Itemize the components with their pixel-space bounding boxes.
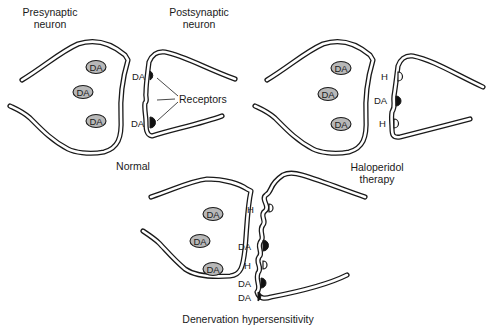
postsynaptic-membrane	[257, 173, 365, 298]
da-receptor-bound	[396, 96, 401, 106]
caption-denervation: Denervation hypersensitivity	[178, 313, 318, 325]
postsynaptic-membrane	[392, 56, 483, 137]
svg-text:DA: DA	[89, 62, 103, 73]
h-receptor-bound	[394, 119, 399, 128]
svg-text:DA: DA	[334, 63, 348, 74]
svg-text:DA: DA	[206, 264, 220, 275]
receptors-leader-lines	[157, 78, 178, 121]
panel-denervation: DA DA DA H DA H DA DA	[143, 173, 365, 303]
vesicle: DA	[190, 235, 210, 248]
vesicle: DA	[203, 208, 223, 221]
receptor-label: DA	[374, 95, 388, 106]
vesicle: DA	[331, 118, 351, 131]
caption-normal: Normal	[108, 160, 158, 172]
vesicle: DA	[318, 88, 338, 101]
svg-text:DA: DA	[76, 87, 90, 98]
da-receptor-bound	[263, 240, 269, 251]
receptor-label: H	[381, 71, 388, 82]
receptor-label: H	[379, 118, 386, 129]
vesicle: DA	[73, 86, 93, 99]
caption-haloperidol-line2: therapy	[345, 173, 409, 185]
svg-text:DA: DA	[89, 116, 103, 127]
h-receptor-bound	[263, 261, 267, 269]
presynaptic-membrane	[143, 179, 251, 276]
da-receptor-bound	[150, 71, 153, 80]
h-receptor-bound	[398, 72, 403, 81]
vesicle: DA	[203, 263, 223, 276]
svg-text:DA: DA	[193, 236, 207, 247]
receptor-label: DA	[238, 292, 252, 303]
synapse-diagram: DA DA DA DA DA Receptors	[0, 0, 490, 332]
da-receptor-bound	[261, 278, 266, 288]
panel-haloperidol: DA DA DA H DA H	[255, 42, 483, 154]
svg-text:DA: DA	[206, 209, 220, 220]
caption-haloperidol: Haloperidol therapy	[345, 161, 409, 185]
vesicle: DA	[331, 62, 351, 75]
presynaptic-membrane	[255, 42, 373, 154]
presynaptic-membrane	[10, 42, 128, 154]
caption-haloperidol-line1: Haloperidol	[345, 161, 409, 173]
receptor-label: DA	[238, 241, 252, 252]
receptors-callout: Receptors	[179, 93, 227, 105]
receptor-label: DA	[131, 118, 145, 129]
da-receptor-bound	[258, 292, 261, 301]
h-receptor-bound	[269, 204, 273, 212]
vesicle: DA	[86, 115, 106, 128]
vesicle: DA	[86, 61, 106, 74]
receptor-label: DA	[132, 71, 146, 82]
panel-normal: DA DA DA DA DA Receptors	[10, 42, 235, 154]
da-receptor-bound	[150, 117, 156, 128]
svg-text:DA: DA	[321, 89, 335, 100]
receptor-label: H	[244, 260, 251, 271]
receptor-label: H	[247, 204, 254, 215]
receptor-label: DA	[238, 278, 252, 289]
svg-text:DA: DA	[334, 119, 348, 130]
